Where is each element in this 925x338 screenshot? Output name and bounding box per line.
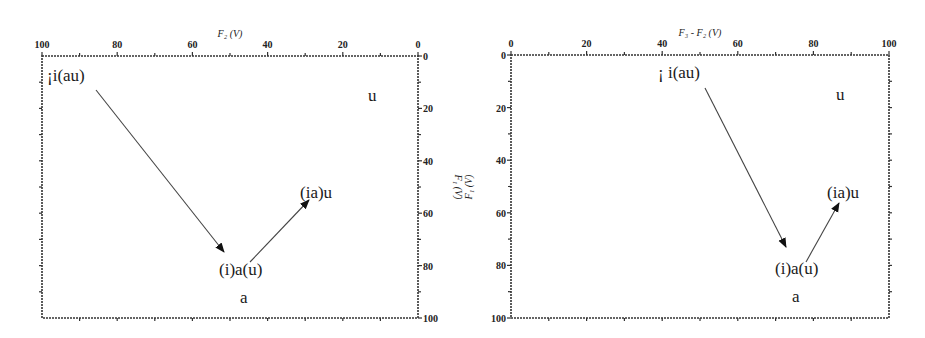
right-label-i-au: ¡ i(au) <box>658 63 700 82</box>
left-x-tick-labels: 100 80 60 40 20 0 <box>35 39 421 50</box>
left-x-tick: 60 <box>187 39 197 50</box>
right-x-tick: 20 <box>582 38 592 49</box>
left-y-tick-labels: 0 20 40 60 80 100 <box>423 51 438 324</box>
right-chart: 0 20 40 60 80 100 F₃ - F₂ (V) <box>463 27 897 324</box>
left-y-tick: 80 <box>423 261 433 272</box>
left-y-tick: 20 <box>423 103 433 114</box>
right-y-tick: 20 <box>496 103 506 114</box>
right-x-tick: 80 <box>808 38 818 49</box>
right-y-tick: 80 <box>496 260 506 271</box>
right-y-tick: 0 <box>501 50 506 61</box>
right-label-i-a-u: (i)a(u) <box>775 259 818 278</box>
right-arrow-a-to-u <box>806 203 839 262</box>
right-x-tick-labels: 0 20 40 60 80 100 <box>509 38 897 49</box>
right-arrow-i-to-a <box>705 88 786 247</box>
right-y-tick: 40 <box>496 155 506 166</box>
left-x-tick: 80 <box>112 39 122 50</box>
figure-canvas: 100 80 60 40 20 0 F₂ (V) <box>0 0 925 338</box>
left-x-axis-title: F₂ (V) <box>217 28 244 40</box>
left-label-i-a-u: (i)a(u) <box>219 260 262 279</box>
left-arrow-a-to-u <box>250 200 309 262</box>
left-label-a: a <box>240 288 248 307</box>
left-x-tick: 0 <box>416 39 421 50</box>
left-y-tick: 100 <box>423 313 438 324</box>
right-label-u: u <box>836 85 845 104</box>
left-chart: 100 80 60 40 20 0 F₂ (V) <box>35 28 465 324</box>
right-label-a: a <box>792 287 800 306</box>
left-label-u: u <box>368 86 377 105</box>
left-y-tick: 0 <box>423 51 428 62</box>
right-y-tick: 60 <box>496 208 506 219</box>
right-y-axis-title: F₁ (V) <box>463 174 475 201</box>
right-x-tick: 40 <box>657 38 667 49</box>
left-x-tick: 40 <box>263 39 273 50</box>
left-x-tick: 20 <box>338 39 348 50</box>
right-x-tick: 60 <box>733 38 743 49</box>
left-label-ia-u: (ia)u <box>300 183 333 202</box>
left-y-tick: 40 <box>423 156 433 167</box>
right-x-axis-title: F₃ - F₂ (V) <box>678 27 722 39</box>
right-x-tick: 100 <box>882 38 897 49</box>
right-x-tick: 0 <box>509 38 514 49</box>
right-y-tick: 100 <box>491 313 506 324</box>
right-label-ia-u: (ia)u <box>827 183 860 202</box>
left-label-i-au: ¡i(au) <box>47 66 85 85</box>
right-y-tick-labels: 0 20 40 60 80 100 <box>491 50 506 324</box>
left-arrow-i-to-a <box>96 90 224 252</box>
left-y-tick: 60 <box>423 208 433 219</box>
left-x-tick: 100 <box>35 39 50 50</box>
